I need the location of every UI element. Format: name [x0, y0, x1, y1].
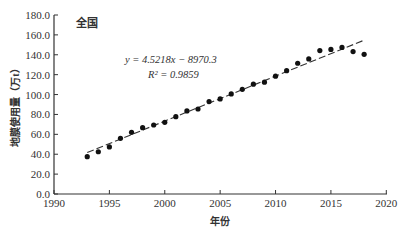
y-axis-title: 地膜使用量（万t）: [9, 63, 21, 146]
data-point: [262, 80, 267, 85]
r-squared-text: R² = 0.9859: [147, 69, 200, 80]
y-tick-label: 160.0: [25, 29, 50, 41]
data-point: [350, 49, 355, 54]
data-point: [229, 91, 234, 96]
y-tick-label: 60.0: [31, 128, 51, 140]
x-tick-label: 2020: [375, 197, 398, 209]
x-tick-label: 2010: [265, 197, 288, 209]
y-tick-label: 100.0: [25, 89, 50, 101]
data-point: [251, 82, 256, 87]
x-tick-label: 1995: [98, 197, 121, 209]
x-tick-label: 2000: [154, 197, 177, 209]
y-tick-label: 40.0: [31, 148, 51, 160]
equation-text: y = 4.5218x − 8970.3: [124, 54, 217, 65]
data-point: [129, 130, 134, 135]
data-point: [195, 106, 200, 111]
data-point: [328, 47, 333, 52]
data-point: [284, 68, 289, 73]
data-point: [173, 114, 178, 119]
x-tick-label: 1990: [43, 197, 66, 209]
data-point: [151, 122, 156, 127]
y-tick-label: 140.0: [25, 49, 50, 61]
panel-label: 全国: [75, 16, 98, 29]
y-tick-label: 180.0: [25, 9, 50, 21]
scatter-chart: 0.020.040.060.080.0100.0120.0140.0160.01…: [0, 0, 404, 231]
data-point: [184, 108, 189, 113]
data-point: [218, 96, 223, 101]
y-ticks: 0.020.040.060.080.0100.0120.0140.0160.01…: [25, 9, 58, 200]
data-point: [339, 45, 344, 50]
data-point: [140, 125, 145, 130]
regression-equation: y = 4.5218x − 8970.3 R² = 0.9859: [124, 54, 217, 80]
data-point: [273, 74, 278, 79]
x-tick-label: 2005: [209, 197, 232, 209]
data-point: [118, 136, 123, 141]
data-point: [306, 56, 311, 61]
data-point: [206, 99, 211, 104]
data-point: [240, 87, 245, 92]
x-ticks: 1990199520002005201020152020: [43, 190, 398, 209]
data-point: [85, 154, 90, 159]
data-point: [362, 52, 367, 57]
x-axis-title: 年份: [210, 215, 231, 227]
data-point: [162, 120, 167, 125]
x-tick-label: 2015: [320, 197, 343, 209]
data-point: [295, 61, 300, 66]
data-point: [96, 149, 101, 154]
data-point: [317, 48, 322, 53]
y-tick-label: 20.0: [31, 168, 51, 180]
axes: 0.020.040.060.080.0100.0120.0140.0160.01…: [25, 9, 398, 209]
data-point: [107, 144, 112, 149]
y-tick-label: 80.0: [31, 108, 51, 120]
y-tick-label: 120.0: [25, 69, 50, 81]
